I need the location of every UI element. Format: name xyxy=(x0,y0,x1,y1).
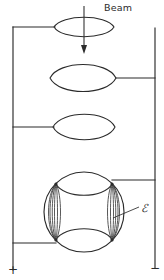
beam-lens-circuit-diagram: Beam ℰ + − xyxy=(0,0,164,280)
compound-node-bottom-right xyxy=(110,238,113,241)
beam-arrow-head xyxy=(81,45,87,54)
terminal-positive-label: + xyxy=(8,264,18,276)
compound-right-arc-bundle xyxy=(108,184,120,240)
compound-circle-element xyxy=(44,172,124,252)
compound-top-inner-lens xyxy=(56,184,112,195)
beam-label: Beam xyxy=(104,3,132,13)
compound-node-bottom-left xyxy=(54,238,57,241)
beam-direction-arrow xyxy=(81,6,87,54)
lens-element-2 xyxy=(50,65,116,92)
lens-2-outline xyxy=(50,65,116,92)
lens-element-3 xyxy=(53,114,115,140)
lens-3-outline xyxy=(53,114,115,140)
field-leader-line xyxy=(113,207,139,218)
lead-wires xyxy=(13,27,155,243)
field-strength-label: ℰ xyxy=(141,203,148,214)
terminal-negative-label: − xyxy=(150,262,160,274)
compound-bottom-inner-lens xyxy=(56,229,112,240)
circuit-rails xyxy=(13,27,155,270)
compound-node-top-right xyxy=(110,182,113,185)
compound-node-top-left xyxy=(54,182,57,185)
diagram-canvas xyxy=(0,0,164,280)
compound-left-arc-bundle xyxy=(49,184,61,240)
